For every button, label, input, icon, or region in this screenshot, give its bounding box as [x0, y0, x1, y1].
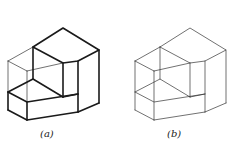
- drawing-area: [0, 0, 239, 147]
- caption-b: (b): [167, 128, 181, 139]
- isometric-figure-pair: (a) (b): [0, 0, 239, 147]
- caption-a: (a): [40, 128, 54, 139]
- figure-a-solid: [8, 28, 99, 120]
- figure-b-solid: [135, 28, 226, 120]
